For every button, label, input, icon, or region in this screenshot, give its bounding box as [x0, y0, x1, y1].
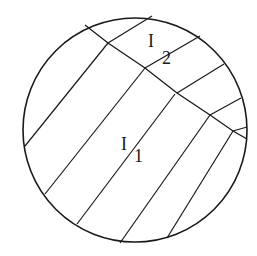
- region-I2-boundary-line: [210, 98, 241, 115]
- region-labels: I 2 I 1: [121, 31, 171, 166]
- grain-diagram: I 2 I 1: [0, 0, 257, 256]
- label-I1-sub: 1: [134, 146, 143, 166]
- region-I2-boundary-line: [177, 64, 224, 93]
- region-I2-boundary-line: [233, 127, 247, 131]
- region-I1-boundary-line: [45, 68, 145, 194]
- region-I1-boundary-line: [77, 94, 175, 224]
- label-I2-sub: 2: [162, 48, 171, 68]
- label-I1-main: I: [121, 134, 127, 154]
- label-I2-main: I: [148, 31, 154, 51]
- specimen-circle-outline: [23, 18, 247, 242]
